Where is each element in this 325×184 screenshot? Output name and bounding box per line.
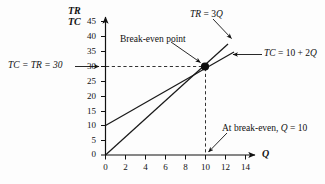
x-axis-ticks [106, 155, 246, 160]
break-even-marker [201, 62, 209, 70]
y-axis-ticks [101, 22, 106, 156]
tr-label-leader [213, 19, 232, 39]
annotation-break-even-point: Break-even point [120, 35, 186, 45]
y-axis-label-tr: TR [68, 6, 81, 16]
tr-line [106, 44, 229, 155]
tr-equation-prefix: TR [190, 9, 201, 19]
y-tick-20: 20 [80, 92, 96, 101]
y-tick-45: 45 [80, 17, 96, 26]
annotation-tc-tr-30: TC = TR = 30 [8, 61, 63, 71]
tr-equation-body: = 3 [201, 9, 216, 19]
y-tick-35: 35 [80, 47, 96, 56]
break-even-q-leader [209, 133, 228, 152]
tr-equation-var: Q [216, 9, 223, 19]
x-axis-label-q: Q [262, 149, 269, 159]
y-tick-10: 10 [80, 121, 96, 130]
y-tick-0: 0 [80, 150, 96, 159]
chart-graphics-layer [0, 0, 325, 184]
x-tick-4: 4 [139, 163, 152, 172]
annotation-break-even-q: At break-even, Q = 10 [222, 124, 307, 134]
break-even-chart: TR TC Q 45 40 35 30 25 20 15 10 5 0 0 2 … [0, 0, 325, 184]
break-even-leader [171, 42, 201, 63]
y-tick-5: 5 [80, 136, 96, 145]
x-tick-6: 6 [159, 163, 172, 172]
break-even-q-text: At break-even, [222, 123, 281, 133]
break-even-q-value: = 10 [288, 123, 308, 133]
x-tick-8: 8 [179, 163, 192, 172]
tc-equation-prefix: TC [264, 48, 276, 58]
x-tick-14: 14 [239, 163, 252, 172]
y-tick-15: 15 [80, 107, 96, 116]
y-axis-label-tc: TC [68, 17, 81, 27]
annotation-tc-equation: TC = 10 + 2Q [264, 49, 317, 59]
x-tick-10: 10 [199, 163, 212, 172]
tc-equation-var: Q [310, 48, 317, 58]
tc-equation-body: = 10 + 2 [276, 48, 310, 58]
y-tick-25: 25 [80, 77, 96, 86]
x-tick-12: 12 [219, 163, 232, 172]
y-tick-30: 30 [80, 62, 96, 71]
break-even-q-var: Q [281, 123, 288, 133]
annotation-tr-equation: TR = 3Q [190, 10, 223, 20]
x-tick-0: 0 [99, 163, 112, 172]
x-tick-2: 2 [119, 163, 132, 172]
y-tick-40: 40 [80, 32, 96, 41]
tc-line [106, 52, 235, 126]
